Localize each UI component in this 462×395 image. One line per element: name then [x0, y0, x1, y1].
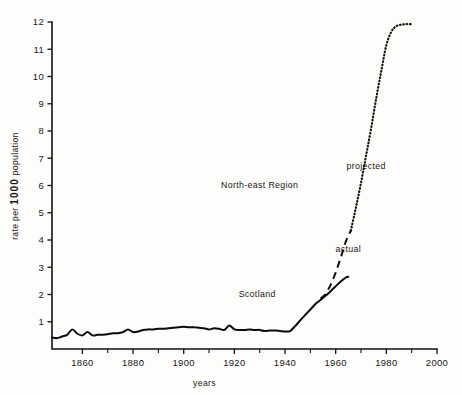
y-tick-label: 10	[33, 71, 44, 82]
series-line-north-east-region-projected	[351, 24, 412, 230]
y-tick-label: 3	[38, 262, 44, 273]
tick-labels: 1234567891011121860188019001920194019601…	[33, 16, 448, 368]
y-tick-label: 4	[38, 234, 44, 245]
chart-figure: 1234567891011121860188019001920194019601…	[0, 0, 462, 395]
x-tick-label: 1960	[325, 357, 347, 368]
series-line-north-east-region-actual	[320, 230, 350, 298]
series-line-scotland	[52, 277, 348, 338]
y-tick-label: 11	[34, 44, 44, 55]
annotation-north-east-region: North-east Region	[221, 180, 298, 190]
y-tick-label: 12	[33, 16, 44, 27]
x-tick-label: 1920	[223, 357, 245, 368]
x-tick-label: 1940	[274, 357, 296, 368]
line-chart-svg: 1234567891011121860188019001920194019601…	[0, 0, 462, 395]
x-tick-label: 2000	[426, 357, 448, 368]
y-tick-label: 5	[38, 207, 44, 218]
y-axis-label: rate per 1000 population	[9, 132, 20, 240]
y-tick-label: 1	[38, 316, 44, 327]
y-tick-label: 6	[38, 180, 44, 191]
annotation-scotland: Scotland	[239, 289, 276, 299]
y-tick-label: 8	[38, 125, 44, 136]
x-tick-label: 1880	[122, 357, 144, 368]
annotation-projected: projected	[346, 161, 385, 171]
x-tick-label: 1900	[173, 357, 195, 368]
x-axis-label: years	[193, 378, 216, 388]
x-tick-label: 1980	[375, 357, 397, 368]
y-tick-label: 9	[38, 98, 44, 109]
x-tick-label: 1860	[71, 357, 93, 368]
y-tick-label: 2	[38, 289, 44, 300]
y-tick-label: 7	[38, 153, 44, 164]
annotation-actual: actual	[336, 244, 362, 254]
